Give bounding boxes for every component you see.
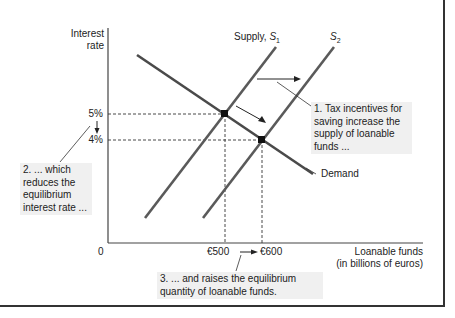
demand-label: Demand <box>321 168 359 180</box>
origin-label: 0 <box>98 246 104 258</box>
annotation-2: 2. ... which reduces the equilibrium int… <box>20 163 92 215</box>
supply-s2-label: S2 <box>330 31 341 47</box>
shift-arrow-diagonal <box>258 116 266 123</box>
y-tick-5: 5% <box>80 108 103 120</box>
quantity-right-arrow <box>251 250 258 255</box>
y-axis-label: Interest rate <box>54 28 104 52</box>
equilibrium-point-1 <box>221 110 228 117</box>
leader-note-3 <box>236 255 241 271</box>
x-axis-label: Loanable funds (in billions of euros) <box>320 246 423 270</box>
supply-s1-label: Supply, S1 <box>234 31 280 47</box>
shift-arrow-right <box>294 76 301 82</box>
x-tick-600: €600 <box>260 246 282 258</box>
y-tick-4: 4% <box>80 134 103 146</box>
x-tick-500: €500 <box>207 246 229 258</box>
annotation-1: 1. Tax incentives for saving increase th… <box>311 102 412 154</box>
annotation-3: 3. ... and raises the equilibrium quanti… <box>157 272 323 299</box>
equilibrium-point-2 <box>258 136 265 143</box>
